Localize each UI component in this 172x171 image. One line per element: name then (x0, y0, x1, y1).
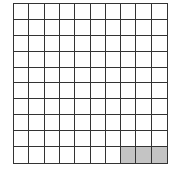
grid-cell (106, 4, 121, 20)
grid-cell (91, 36, 106, 52)
grid-cell (91, 68, 106, 84)
grid-cell (60, 68, 75, 84)
grid-cell (106, 20, 121, 36)
grid-cell (121, 99, 136, 115)
grid-cell (91, 99, 106, 115)
grid-cell (91, 4, 106, 20)
grid-cell (29, 115, 44, 131)
grid-cell (136, 36, 151, 52)
grid-cell (60, 83, 75, 99)
grid-cell (152, 68, 167, 84)
grid-cell (136, 83, 151, 99)
grid-cell (14, 115, 29, 131)
grid-cell (45, 131, 60, 147)
grid-cell (29, 36, 44, 52)
grid-cell (121, 68, 136, 84)
grid-cell (29, 68, 44, 84)
grid-cell (45, 83, 60, 99)
grid-cell (60, 20, 75, 36)
grid-cell (152, 131, 167, 147)
grid-cell (136, 131, 151, 147)
grid-cell (14, 131, 29, 147)
grid-cell (91, 83, 106, 99)
grid-cell (91, 115, 106, 131)
grid-cell (29, 147, 44, 163)
grid-cell (152, 4, 167, 20)
grid-cell-shaded (152, 147, 167, 163)
grid-cell (91, 147, 106, 163)
grid-cell (106, 131, 121, 147)
grid-cell (75, 20, 90, 36)
grid-cell (121, 83, 136, 99)
grid-cell (75, 68, 90, 84)
grid-cell (91, 20, 106, 36)
grid-cell (60, 52, 75, 68)
grid-cell (136, 20, 151, 36)
hundred-grid (13, 3, 168, 164)
grid-cell (14, 52, 29, 68)
grid-cell (106, 83, 121, 99)
grid-cell (152, 20, 167, 36)
grid-cell (29, 99, 44, 115)
grid-cell (45, 36, 60, 52)
grid-cell (152, 99, 167, 115)
grid-cell (106, 36, 121, 52)
grid-cell (152, 36, 167, 52)
grid-cell (29, 20, 44, 36)
grid-cell (14, 68, 29, 84)
grid-cell (60, 99, 75, 115)
grid-cell (45, 147, 60, 163)
grid-cell (29, 52, 44, 68)
grid-cell (60, 4, 75, 20)
grid-cell (136, 68, 151, 84)
grid-cell (121, 36, 136, 52)
grid-cell (14, 99, 29, 115)
grid-cell (91, 52, 106, 68)
grid-cell (136, 52, 151, 68)
grid-cell (60, 115, 75, 131)
grid-cell (121, 52, 136, 68)
grid-cell (75, 99, 90, 115)
grid-cell (75, 131, 90, 147)
grid-cell (152, 115, 167, 131)
grid-cell (75, 83, 90, 99)
grid-cell (121, 20, 136, 36)
grid-cell (45, 4, 60, 20)
grid-cell (75, 36, 90, 52)
grid-cell (136, 4, 151, 20)
grid-cell (29, 131, 44, 147)
grid-cell (45, 20, 60, 36)
grid-cell (14, 20, 29, 36)
grid-cell (152, 83, 167, 99)
grid-cell-shaded (136, 147, 151, 163)
grid-cell (14, 147, 29, 163)
grid-cell (45, 99, 60, 115)
grid-cell (45, 52, 60, 68)
grid-cell (14, 36, 29, 52)
grid-cell (14, 83, 29, 99)
grid-cell (14, 4, 29, 20)
grid-cell (60, 36, 75, 52)
grid-cell (106, 68, 121, 84)
grid-cell-shaded (121, 147, 136, 163)
grid-cell (75, 147, 90, 163)
grid-cell (29, 83, 44, 99)
grid-cell (106, 147, 121, 163)
grid-cell (75, 52, 90, 68)
grid-cell (121, 131, 136, 147)
grid-cell (152, 52, 167, 68)
grid-cell (121, 115, 136, 131)
grid-cell (121, 4, 136, 20)
grid-cell (45, 68, 60, 84)
grid-cell (106, 52, 121, 68)
grid-cell (136, 115, 151, 131)
grid-cell (106, 115, 121, 131)
grid-cell (29, 4, 44, 20)
grid-cell (75, 115, 90, 131)
grid-cell (136, 99, 151, 115)
grid-cell (75, 4, 90, 20)
grid-cell (106, 99, 121, 115)
grid-cell (91, 131, 106, 147)
grid-cell (60, 131, 75, 147)
grid-cell (45, 115, 60, 131)
